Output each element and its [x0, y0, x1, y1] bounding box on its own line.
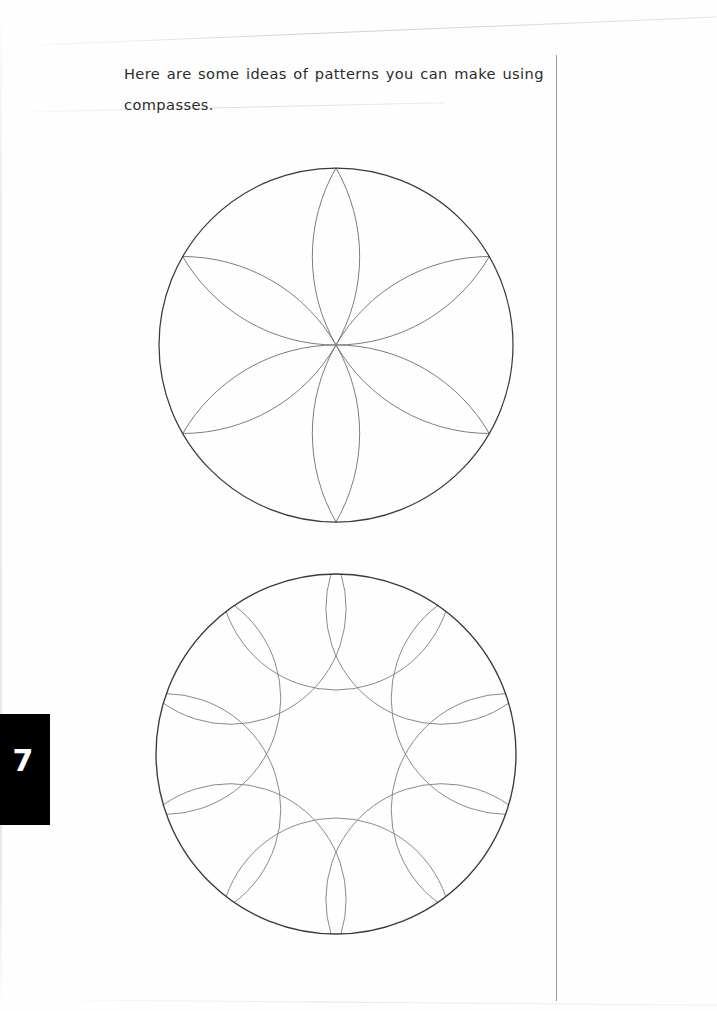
compass-arc [183, 257, 360, 523]
scan-artifact-line-top [0, 17, 716, 47]
page-number-tab: 7 [0, 714, 50, 825]
compass-arc [163, 784, 346, 934]
compass-arc [312, 257, 489, 523]
compass-arc [183, 345, 490, 434]
compass-arc [226, 611, 446, 690]
vertical-margin-rule [556, 55, 557, 1001]
compass-arc [183, 168, 360, 434]
instruction-text: Here are some ideas of patterns you can … [124, 58, 554, 120]
figure-ten-arc-rosette [152, 570, 528, 946]
compass-arc [226, 818, 446, 897]
worksheet-page: Here are some ideas of patterns you can … [0, 0, 717, 1011]
page-number-label: 7 [13, 746, 34, 776]
figure-six-petal-rosette [150, 159, 522, 531]
page-edge-shadow [0, 0, 2, 1011]
compass-arc [183, 257, 490, 346]
outer-circle [156, 574, 516, 934]
compass-arc [326, 784, 509, 934]
compass-arc [312, 168, 489, 434]
ten-arc-rosette-drawing [152, 570, 528, 946]
compass-arc [326, 574, 509, 724]
scan-artifact-line-bottom [0, 999, 717, 1006]
six-petal-rosette-drawing [150, 159, 522, 531]
compass-arc [163, 574, 346, 724]
